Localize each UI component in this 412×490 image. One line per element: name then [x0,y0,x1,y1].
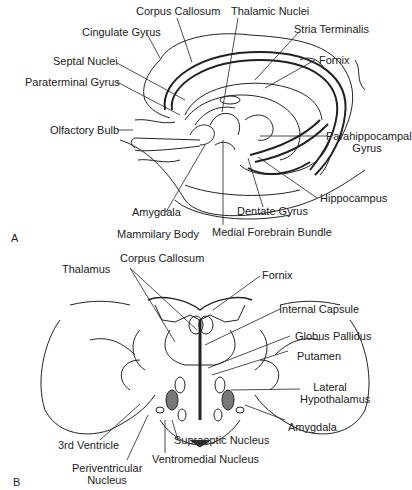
label-lateral-hypothalamus-line1: Lateral [313,381,347,393]
label-globus-pallidus: Globus Pallidus [295,330,371,342]
label-hippocampus: Hippocampus [320,192,387,204]
label-amygdala-b: Amygdala [288,421,337,433]
label-putamen: Putamen [297,350,341,362]
label-amygdala-a: Amygdala [132,206,181,218]
label-fornix-a: Fornix [319,54,350,66]
label-thalamus: Thalamus [62,263,110,275]
label-supraoptic-nucleus: Supraoptic Nucleus [174,434,269,446]
label-medial-forebrain-bundle: Medial Forebrain Bundle [212,226,332,238]
label-periventricular-line2: Nucleus [87,474,127,486]
label-periventricular-nucleus: Periventricular Nucleus [72,462,142,486]
label-stria-terminalis: Stria Terminalis [294,23,369,35]
label-parahippocampal-line2: Gyrus [352,142,381,154]
label-lateral-hypothalamus-line2: Hypothalamus [300,393,370,405]
label-parahippocampal-line1: Parahippocampal [326,130,412,142]
label-corpus-callosum-b: Corpus Callosum [120,252,204,264]
label-periventricular-line1: Periventricular [72,462,142,474]
label-corpus-callosum-a: Corpus Callosum [136,5,220,17]
label-internal-capsule: Internal Capsule [279,303,359,315]
label-parahippocampal-gyrus: Parahippocampal Gyrus [326,130,408,154]
label-dentate-gyrus: Dentate Gyrus [237,205,308,217]
label-mammilary-body: Mammilary Body [117,228,199,240]
label-thalamic-nuclei: Thalamic Nuclei [231,5,309,17]
label-olfactory-bulb: Olfactory Bulb [50,124,119,136]
label-paraterminal-gyrus: Paraterminal Gyrus [25,76,120,88]
label-septal-nuclei: Septal Nuclei [53,55,118,67]
label-third-ventricle: 3rd Ventricle [58,439,119,451]
label-cingulate-gyrus: Cingulate Gyrus [82,26,161,38]
panel-a-letter: A [11,232,18,244]
panel-b-letter: B [13,476,20,488]
label-lateral-hypothalamus: Lateral Hypothalamus [300,381,360,405]
label-ventromedial-nucleus: Ventromedial Nucleus [152,453,259,465]
label-fornix-b: Fornix [262,269,293,281]
